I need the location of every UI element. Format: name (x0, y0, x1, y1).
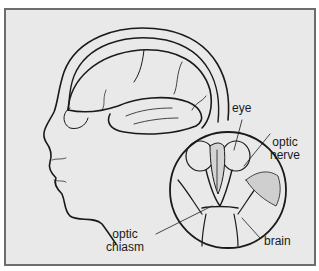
anatomy-illustration (6, 10, 314, 264)
temporal-lobe (68, 98, 202, 134)
label-optic-chiasm: optic chiasm (106, 228, 144, 254)
label-brain: brain (264, 235, 291, 248)
label-optic-chiasm-line2: chiasm (106, 241, 144, 254)
label-optic-nerve-line2: nerve (270, 149, 300, 162)
brain-cerebrum (68, 50, 211, 128)
label-eye: eye (232, 102, 251, 115)
label-optic-nerve: optic nerve (270, 136, 300, 162)
figure-frame: eye optic nerve optic chiasm brain (4, 8, 316, 266)
